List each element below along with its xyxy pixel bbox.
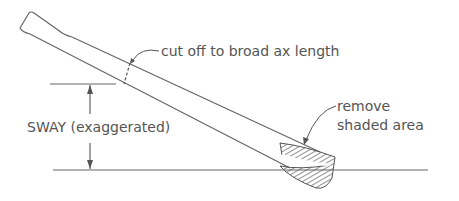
- diagram-svg: cut off to broad ax length SWAY (exagger…: [0, 0, 459, 201]
- arrow-down-icon: [87, 160, 93, 169]
- arrow-up-icon: [87, 85, 93, 94]
- cut-leader-arrow: [133, 50, 159, 60]
- remove-leader-arrow: [306, 106, 336, 140]
- remove-label-line2: shaded area: [337, 117, 424, 133]
- sway-label: SWAY (exaggerated): [27, 119, 170, 135]
- cut-line: [124, 63, 130, 84]
- cut-off-label: cut off to broad ax length: [161, 43, 339, 59]
- shaded-area: [280, 143, 335, 188]
- remove-label-line1: remove: [337, 98, 390, 114]
- axe-handle: [20, 12, 320, 168]
- diagram-canvas: cut off to broad ax length SWAY (exagger…: [0, 0, 459, 201]
